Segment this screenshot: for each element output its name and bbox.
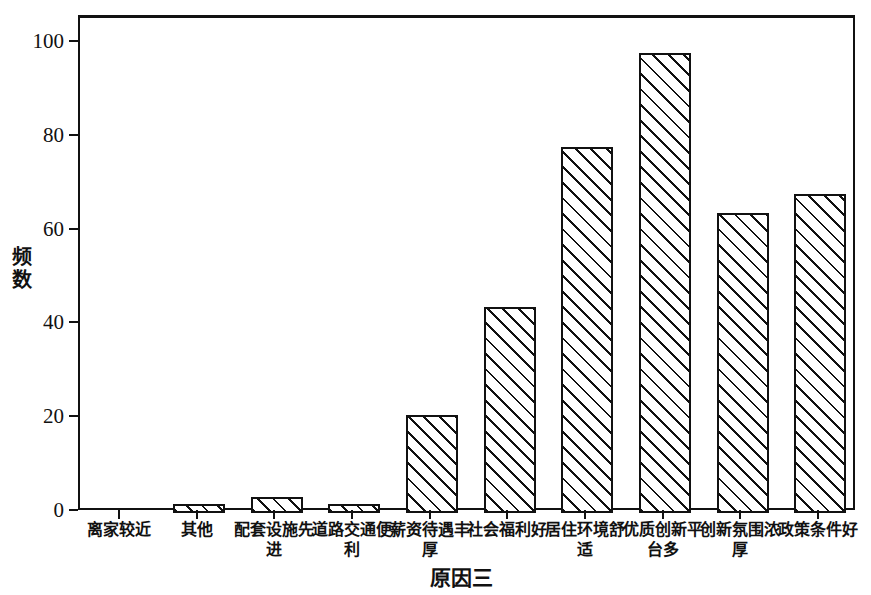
y-tick-label-40: 40 (43, 310, 64, 335)
x-tick-mark-3 (351, 510, 353, 519)
bar-8 (794, 194, 846, 513)
bar-4 (484, 307, 536, 513)
plot-area (78, 15, 855, 510)
y-tick-mark-100 (69, 40, 78, 42)
x-tick-label-0: 离家较近 (76, 520, 162, 540)
bar-6 (639, 53, 691, 513)
x-tick-mark-5 (506, 510, 508, 519)
y-tick-label-20: 20 (43, 404, 64, 429)
x-tick-mark-6 (584, 510, 586, 519)
x-tick-mark-9 (817, 510, 819, 519)
bar-5 (561, 147, 613, 513)
x-tick-label-1: 其他 (154, 520, 240, 540)
chart-screenshot: 频数 020406080100 原因三 离家较近其他配套设施先进道路交通便利薪资… (0, 0, 871, 595)
x-axis-title: 原因三 (0, 561, 871, 591)
x-tick-mark-4 (429, 510, 431, 519)
x-tick-mark-8 (739, 510, 741, 519)
x-tick-label-3: 道路交通便利 (309, 520, 395, 561)
bar-2 (328, 504, 380, 513)
x-tick-label-6: 居住环境舒适 (542, 520, 628, 561)
bar-0 (173, 504, 225, 513)
x-tick-label-5: 社会福利好 (464, 520, 550, 540)
x-tick-label-4: 薪资待遇丰厚 (387, 520, 473, 561)
y-tick-mark-60 (69, 228, 78, 230)
y-tick-label-60: 60 (43, 216, 64, 241)
y-tick-label-100: 100 (33, 29, 65, 54)
x-tick-mark-0 (118, 510, 120, 519)
y-tick-mark-20 (69, 415, 78, 417)
x-tick-label-9: 政策条件好 (775, 520, 861, 540)
y-tick-label-80: 80 (43, 122, 64, 147)
x-tick-mark-7 (662, 510, 664, 519)
y-tick-label-0: 0 (54, 498, 65, 523)
x-tick-label-7: 优质创新平台多 (620, 520, 706, 561)
y-tick-mark-80 (69, 134, 78, 136)
bar-7 (717, 213, 769, 513)
x-tick-label-8: 创新氛围浓厚 (697, 520, 783, 561)
x-tick-label-2: 配套设施先进 (231, 520, 317, 561)
y-axis-ticks: 020406080100 (0, 0, 78, 595)
x-tick-mark-2 (273, 510, 275, 519)
y-tick-mark-40 (69, 321, 78, 323)
y-tick-mark-0 (69, 509, 78, 511)
bar-1 (251, 497, 303, 513)
bar-3 (406, 415, 458, 513)
x-tick-mark-1 (196, 510, 198, 519)
